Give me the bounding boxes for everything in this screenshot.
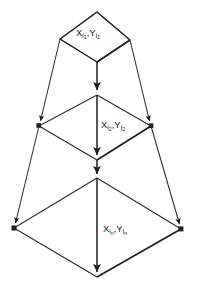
level-2-diamond[interactable]: Xi2,Yi2: [39, 95, 151, 160]
level-2-label: Xi2,Yi2: [101, 119, 125, 133]
level-3-edge-right-bottom: [97, 229, 181, 277]
level-3-edge-left-top: [14, 178, 97, 228]
diagram-canvas: Xi1,Yi1 Xi2,Yi2 Xin,Yin: [0, 0, 201, 295]
level-2-label-y-subsub: 2: [122, 126, 125, 132]
level-1-diamond[interactable]: Xi1,Yi1: [60, 12, 130, 62]
vertex-marker-level2-left: [36, 123, 41, 128]
pyramid-diagram-svg: Xi1,Yi1 Xi2,Yi2 Xin,Yin: [0, 0, 201, 295]
right-slant-edge-lower: [151, 126, 180, 224]
level-2-edge-left-top: [39, 95, 97, 126]
level-1-edge-top-right: [97, 12, 130, 40]
left-slant-edge-upper: [41, 39, 61, 121]
right-slant-edge-upper: [130, 40, 150, 121]
level-1-label: Xi1,Yi1: [76, 27, 100, 41]
level-1-edge-right-bottom: [97, 40, 130, 62]
level-1-edge-bottom-left: [60, 39, 97, 62]
left-slant-edge-lower: [16, 126, 40, 223]
level-2-edge-bottom-left: [39, 126, 97, 160]
level-3-label-y-subsub: n: [124, 230, 127, 236]
vertex-marker-level2-right: [149, 123, 154, 128]
level-3-label: Xin,Yin: [103, 223, 127, 237]
vertex-marker-level3-right: [178, 226, 183, 231]
level-3-edge-bottom-left: [14, 228, 97, 277]
vertex-marker-level3-left: [12, 226, 17, 231]
level-1-label-y-subsub: 1: [97, 34, 100, 40]
